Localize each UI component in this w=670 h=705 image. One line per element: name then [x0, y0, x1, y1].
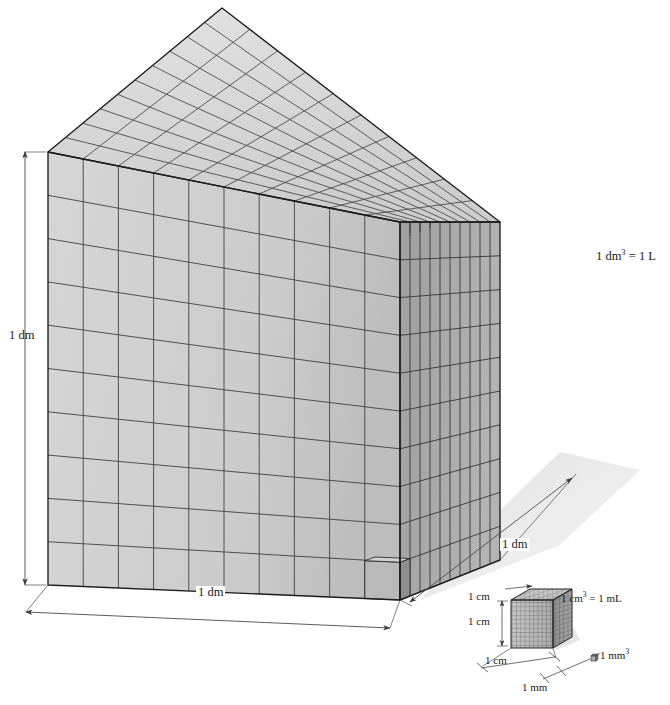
label-cm-width: 1 cm: [485, 655, 507, 666]
cm-cube-front-grid: [511, 600, 553, 648]
dim-mm-width: [543, 659, 590, 679]
label-mm-cubed: 1 mm3: [600, 650, 629, 661]
label-dm-cubed-equals-liter: 1 dm3 = 1 L: [596, 250, 656, 263]
cubic-decimeter-cube: [48, 8, 500, 600]
label-mm-width: 1 mm: [522, 682, 547, 693]
label-cm-cubed-equals-ml: 1 cm3 = 1 mL: [561, 593, 622, 604]
label-cm-depth: 1 cm: [468, 591, 490, 602]
label-cm-height: 1 cm: [468, 616, 490, 627]
dim-width-ext-r: [390, 600, 400, 628]
dim-cm-depth: [505, 586, 532, 589]
dim-width-line: [26, 612, 390, 628]
mm-cube-front: [591, 656, 596, 661]
dim-width-ext-l: [26, 585, 48, 612]
dim-mm-tick-r: [557, 666, 566, 676]
label-dm-width: 1 dm: [196, 586, 225, 599]
label-dm-depth: 1 dm: [500, 538, 529, 551]
cube-corner-notch: [365, 557, 410, 600]
dim-depth-ext-f: [400, 600, 412, 606]
label-dm-height: 1 dm: [9, 329, 34, 342]
